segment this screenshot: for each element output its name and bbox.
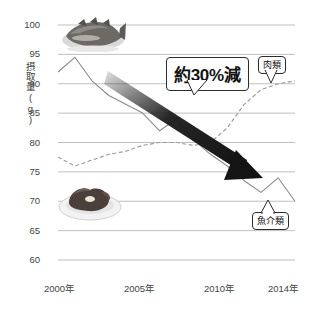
- fish-label-tail: [260, 200, 276, 214]
- x-tick-2005: 2005年: [124, 281, 155, 295]
- y-tick-70: 70: [16, 195, 40, 206]
- y-tick-65: 65: [16, 225, 40, 236]
- y-tick-85: 85: [16, 107, 40, 118]
- y-tick-60: 60: [16, 254, 40, 265]
- y-tick-90: 90: [16, 78, 40, 89]
- x-tick-2010: 2010年: [204, 281, 235, 295]
- y-tick-75: 75: [16, 166, 40, 177]
- x-tick-2000: 2000年: [44, 281, 75, 295]
- y-tick-100: 100: [16, 19, 40, 30]
- y-tick-95: 95: [16, 48, 40, 59]
- decline-arrow-icon: [0, 0, 320, 310]
- x-tick-2014: 2014年: [268, 281, 299, 295]
- chart-container: 摂取量(g) 100 95 90 85 80 75 70 65 60 2000年…: [0, 0, 320, 310]
- y-tick-80: 80: [16, 137, 40, 148]
- series-label-fish: 魚介類: [252, 212, 289, 230]
- meat-label-tail: [264, 70, 278, 84]
- decline-callout-tail: [186, 80, 208, 96]
